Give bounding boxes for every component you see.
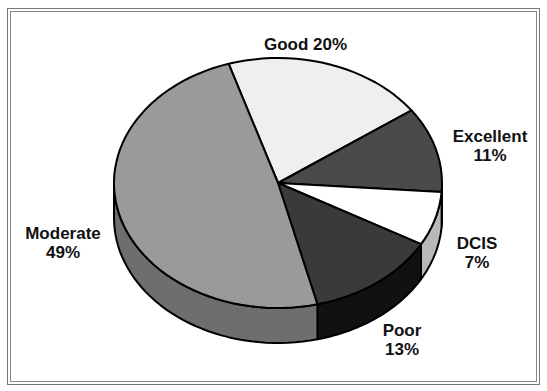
label-good-text: Good 20%: [264, 35, 347, 54]
label-poor-pct: 13%: [372, 340, 432, 359]
label-moderate-pct: 49%: [18, 243, 108, 262]
label-dcis-name: DCIS: [447, 234, 507, 253]
label-moderate: Moderate 49%: [18, 224, 108, 262]
pie-slices: [114, 58, 442, 308]
label-poor: Poor 13%: [372, 321, 432, 359]
label-excellent-name: Excellent: [445, 127, 535, 146]
label-moderate-name: Moderate: [18, 224, 108, 243]
label-dcis: DCIS 7%: [447, 234, 507, 272]
label-poor-name: Poor: [372, 321, 432, 340]
label-excellent-pct: 11%: [445, 146, 535, 165]
pie-chart: [0, 0, 547, 391]
label-dcis-pct: 7%: [447, 253, 507, 272]
label-good: Good 20%: [264, 35, 347, 54]
label-excellent: Excellent 11%: [445, 127, 535, 165]
